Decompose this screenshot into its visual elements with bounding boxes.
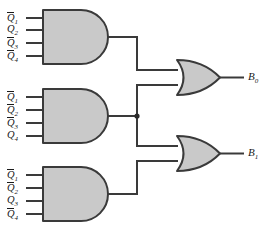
or-gate-0 [177,60,243,95]
and-gate-3-body [43,167,108,221]
and-gate-2-input-label-1: Q1 [7,91,18,105]
and-gate-1-body [43,10,108,64]
or-gate-0-body [177,60,220,95]
or-gate-1 [177,136,243,171]
and-gate-1-input-label-2: Q2 [7,24,18,37]
output-label-b0: B0 [248,71,258,85]
and-gate-2 [27,85,177,146]
and-gate-2-branch-up-wire [137,85,177,116]
and-gate-2-input-label-2: Q2 [7,104,18,118]
and-gate-2-body [43,89,108,143]
and-gate-1-input-label-3: Q3 [7,37,18,51]
output-label-b1: B1 [248,147,258,161]
and-gate-3-input-label-1: Q1 [7,169,18,183]
and-gate-3-input-label-4: Q4 [7,208,18,222]
and-gate-3-output-wire [108,161,177,194]
and-gate-1-input-label-4: Q4 [7,50,18,64]
and-gate-2-branch-down-wire [137,116,177,146]
and-gate-1 [27,10,177,70]
and-gate-3 [27,161,177,221]
and-gate-3-input-label-3: Q3 [7,195,18,208]
logic-circuit-diagram: Q1 Q2 Q3 Q4 Q1 Q2 Q3 Q4 Q1 Q2 Q3 Q4 B0 B… [0,0,264,241]
wire-junction-dot [134,113,139,118]
or-gate-1-body [177,136,220,171]
circuit-canvas [0,0,264,241]
and-gate-2-input-label-4: Q4 [7,130,18,143]
and-gate-1-output-wire [108,37,177,70]
